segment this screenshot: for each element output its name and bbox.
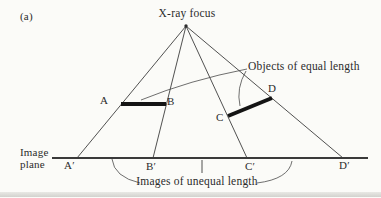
ray-focus-to-c-prime: [186, 26, 247, 158]
leader-objects-to-cd: [239, 71, 246, 106]
leader-objects-to-ab: [141, 69, 247, 100]
xray-focus-label: X-ray focus: [159, 8, 216, 20]
point-label-c-prime: C′: [245, 161, 255, 172]
point-label-a-prime: A′: [64, 160, 75, 171]
image-plane-label-line1: Image: [20, 147, 48, 158]
diagram-geometry: [0, 0, 381, 198]
focus-point: [184, 24, 187, 27]
point-label-b: B: [167, 96, 175, 107]
objects-equal-length-annotation: Objects of equal length: [248, 61, 360, 73]
point-label-a: A: [100, 95, 108, 106]
leader-images-to-cd-span: [257, 161, 292, 183]
xray-magnification-diagram: (a) X-ray focus Objects of equal length …: [0, 0, 381, 198]
page-scan-shadow: [0, 192, 381, 197]
object-bar-cd: [228, 98, 272, 116]
point-label-d-prime: D′: [339, 160, 350, 171]
ray-focus-to-d-prime: [186, 26, 343, 158]
panel-label: (a): [20, 11, 33, 22]
images-unequal-length-annotation: Images of unequal length: [136, 176, 257, 188]
point-label-c: C: [216, 112, 224, 123]
point-label-b-prime: B′: [146, 161, 156, 172]
point-label-d: D: [268, 83, 276, 94]
image-plane-label-line2: plane: [20, 159, 45, 170]
